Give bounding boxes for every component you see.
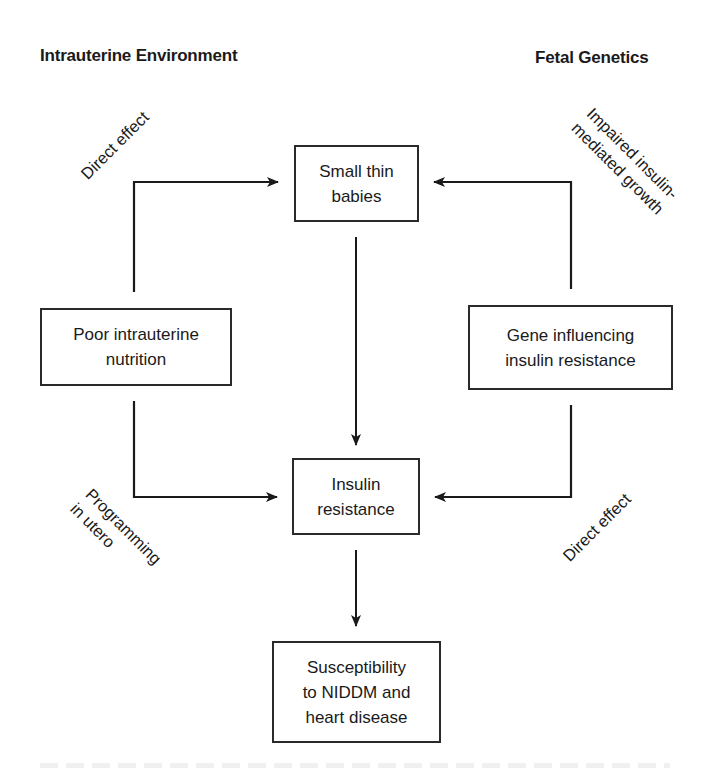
- arrow-nutrition-to-babies: [134, 182, 278, 292]
- node-text-line: Gene influencing: [505, 323, 635, 348]
- node-susceptibility-niddm-heart-disease: Susceptibility to NIDDM and heart diseas…: [272, 641, 441, 743]
- node-text-line: Susceptibility: [303, 655, 411, 680]
- figure-caption-cutoff: [40, 763, 670, 768]
- arrow-gene-to-babies: [434, 182, 571, 289]
- arrow-nutrition-to-insulin-resistance: [134, 401, 277, 497]
- node-text-line: resistance: [317, 497, 394, 522]
- node-text-line: Small thin: [319, 159, 394, 184]
- node-text-line: to NIDDM and: [303, 680, 411, 705]
- node-text-line: heart disease: [303, 705, 411, 730]
- node-small-thin-babies: Small thin babies: [294, 145, 419, 222]
- node-text-line: insulin resistance: [505, 348, 635, 373]
- arrow-gene-to-insulin-resistance: [435, 405, 571, 497]
- node-text-line: babies: [319, 184, 394, 209]
- node-text-line: Poor intrauterine: [73, 322, 199, 347]
- node-insulin-resistance: Insulin resistance: [292, 458, 420, 535]
- node-gene-influencing-insulin-resistance: Gene influencing insulin resistance: [468, 305, 673, 390]
- node-text-line: nutrition: [73, 347, 199, 372]
- node-text-line: Insulin: [317, 472, 394, 497]
- node-poor-intrauterine-nutrition: Poor intrauterine nutrition: [40, 308, 232, 386]
